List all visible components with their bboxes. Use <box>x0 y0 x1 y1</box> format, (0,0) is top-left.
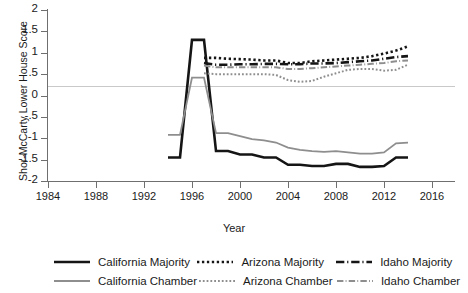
series-line <box>168 78 408 154</box>
legend-item[interactable]: Idaho Majority <box>334 256 468 268</box>
series-line <box>204 56 408 65</box>
legend-label: California Chamber <box>92 275 197 287</box>
legend-label: Arizona Majority <box>235 256 323 268</box>
legend-swatch-icon <box>195 256 235 268</box>
plot-series-layer <box>0 0 468 293</box>
legend-label: Idaho Chamber <box>375 275 460 287</box>
series-line <box>204 65 408 82</box>
legend-swatch-icon <box>197 275 237 287</box>
legend-swatch-icon <box>52 275 92 287</box>
legend-row: California ChamberArizona ChamberIdaho C… <box>0 271 468 290</box>
x-axis-title: Year <box>0 222 468 234</box>
legend-label: California Majority <box>92 256 190 268</box>
chart-legend: California MajorityArizona MajorityIdaho… <box>0 252 468 290</box>
legend-swatch-icon <box>52 256 92 268</box>
chart-figure: Shor-McCarty Lower House Score 21.51.50-… <box>0 0 468 293</box>
legend-label: Arizona Chamber <box>237 275 332 287</box>
legend-swatch-icon <box>335 275 375 287</box>
legend-item[interactable]: Idaho Chamber <box>335 275 468 287</box>
legend-label: Idaho Majority <box>374 256 452 268</box>
legend-item[interactable]: Arizona Chamber <box>197 275 335 287</box>
legend-item[interactable]: California Majority <box>52 256 195 268</box>
legend-row: California MajorityArizona MajorityIdaho… <box>0 252 468 271</box>
legend-swatch-icon <box>334 256 374 268</box>
legend-item[interactable]: Arizona Majority <box>195 256 334 268</box>
legend-item[interactable]: California Chamber <box>52 275 197 287</box>
